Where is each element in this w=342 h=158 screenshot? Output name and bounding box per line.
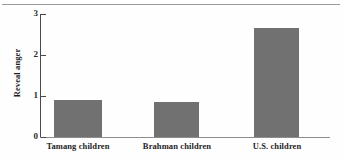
x-category-label-us-children: U.S. children — [217, 141, 337, 151]
y-tick-mark-1 — [41, 96, 46, 97]
y-tick-mark-3 — [41, 14, 46, 15]
y-tick-label-3: 3 — [18, 9, 38, 18]
x-axis-line — [40, 137, 330, 138]
y-tick-mark-0 — [41, 137, 46, 138]
figure-container: 0 1 2 3 Reveal anger Tamang children Bra… — [0, 0, 342, 158]
y-axis-title: Reveal anger — [12, 18, 22, 128]
bar-chart: 0 1 2 3 Reveal anger Tamang children Bra… — [0, 0, 342, 158]
bar-us-children — [254, 28, 299, 137]
y-axis-line — [40, 14, 41, 138]
bar-tamang-children — [54, 100, 102, 137]
bar-brahman-children — [154, 102, 199, 137]
y-tick-mark-2 — [41, 55, 46, 56]
y-tick-label-0: 0 — [18, 132, 38, 141]
